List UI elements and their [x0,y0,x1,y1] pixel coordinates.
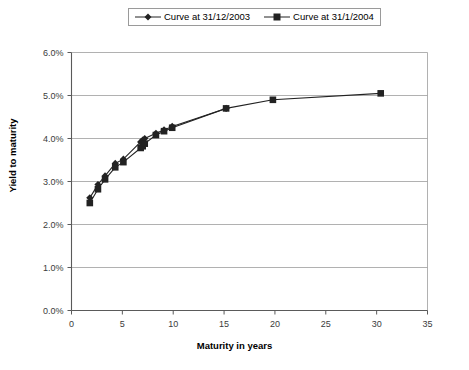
x-tick-label: 35 [422,319,432,329]
data-point-square [112,164,119,171]
chart-legend: Curve at 31/12/2003 Curve at 31/1/2004 [128,8,381,26]
data-point-square [153,132,160,139]
legend-label-0: Curve at 31/12/2003 [164,11,250,23]
y-tick-label: 4.0% [43,134,64,144]
x-tick-label: 25 [321,319,331,329]
data-point-square [223,105,230,112]
y-tick-label: 3.0% [43,177,64,187]
x-tick-label: 0 [69,319,74,329]
data-point-square [102,176,109,183]
y-tick-label: 1.0% [43,263,64,273]
chart-container: 0.0%1.0%2.0%3.0%4.0%5.0%6.0%051015202530… [0,0,469,370]
data-point-square [87,200,94,207]
x-tick-label: 30 [372,319,382,329]
data-point-square [120,159,127,166]
legend-label-1: Curve at 31/1/2004 [293,11,374,23]
data-point-square [377,90,384,97]
y-tick-label: 0.0% [43,306,64,316]
legend-square-marker-icon [264,12,290,22]
y-tick-label: 6.0% [43,48,64,58]
line-chart-plot: 0.0%1.0%2.0%3.0%4.0%5.0%6.0%051015202530… [0,0,469,370]
legend-entry-curve-31-12-2003: Curve at 31/12/2003 [135,11,250,23]
legend-diamond-marker-icon [135,12,161,22]
x-axis-title: Maturity in years [0,340,469,351]
x-tick-label: 20 [270,319,280,329]
y-tick-label: 2.0% [43,220,64,230]
legend-entry-curve-31-1-2004: Curve at 31/1/2004 [264,11,374,23]
x-tick-label: 5 [120,319,125,329]
data-point-square [169,124,176,131]
x-tick-label: 15 [219,319,229,329]
data-point-square [270,97,277,104]
y-tick-label: 5.0% [43,91,64,101]
x-tick-label: 10 [168,319,178,329]
data-point-square [161,128,168,135]
data-point-square [141,140,148,147]
data-point-square [95,186,102,193]
y-axis-title: Yield to maturity [7,96,18,216]
